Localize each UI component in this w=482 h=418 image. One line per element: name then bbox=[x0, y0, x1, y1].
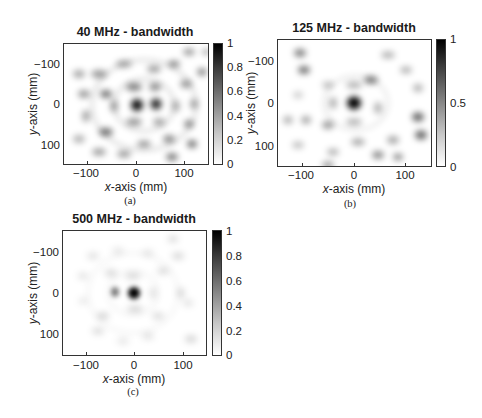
x-tick-label: −100 bbox=[288, 169, 314, 181]
x-tick-label: 100 bbox=[395, 169, 414, 181]
colorbar-tick: 1 bbox=[226, 225, 232, 237]
colorbar-tick: 0.6 bbox=[226, 275, 242, 287]
panel-caption: (b) bbox=[344, 198, 356, 209]
heatmap-image bbox=[278, 40, 432, 167]
chart-title: 125 MHz - bandwidth bbox=[292, 21, 416, 35]
colorbar-tick: 0 bbox=[450, 161, 456, 173]
colorbar-tick: 0.5 bbox=[450, 97, 466, 109]
heatmap-image bbox=[63, 231, 207, 356]
y-axis-label: y-axis (mm) bbox=[244, 72, 258, 135]
panel-c: 500 MHz - bandwidth bbox=[0, 0, 245, 418]
heatmap-plot-area bbox=[62, 230, 207, 356]
x-tick-label: −100 bbox=[73, 359, 99, 371]
x-tick-label: 100 bbox=[173, 359, 192, 371]
y-tick-label: 0 bbox=[268, 97, 274, 109]
x-axis-label: x-axis (mm) bbox=[323, 182, 386, 196]
x-tick-mark bbox=[354, 163, 355, 166]
colorbar bbox=[436, 39, 446, 167]
x-tick-mark bbox=[405, 163, 406, 166]
x-tick-mark bbox=[86, 352, 87, 355]
colorbar-tick: 0.4 bbox=[226, 300, 242, 312]
colorbar-tick: 0 bbox=[226, 349, 232, 361]
x-tick-label: 0 bbox=[351, 169, 357, 181]
chart-title: 500 MHz - bandwidth bbox=[72, 212, 196, 226]
colorbar-tick: 1 bbox=[450, 33, 456, 45]
y-tick-label: 100 bbox=[255, 140, 274, 152]
y-tick-label: −100 bbox=[33, 246, 59, 258]
x-axis-label: x-axis (mm) bbox=[103, 372, 166, 386]
x-tick-mark bbox=[183, 352, 184, 355]
y-axis-label: y-axis (mm) bbox=[26, 262, 40, 325]
colorbar-tick: 0.8 bbox=[226, 250, 242, 262]
colorbar-tick: 0.2 bbox=[226, 325, 242, 337]
x-tick-mark bbox=[302, 163, 303, 166]
y-tick-label: −100 bbox=[248, 55, 274, 67]
x-tick-label: 0 bbox=[131, 359, 137, 371]
colorbar bbox=[212, 230, 222, 356]
y-tick-label: 0 bbox=[53, 287, 59, 299]
heatmap-plot-area bbox=[277, 39, 432, 167]
x-tick-mark bbox=[134, 352, 135, 355]
y-tick-label: 100 bbox=[40, 328, 59, 340]
panel-caption: (c) bbox=[127, 386, 139, 397]
